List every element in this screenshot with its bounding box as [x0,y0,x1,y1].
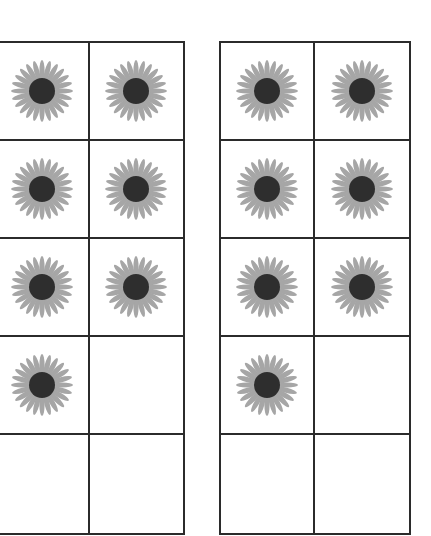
frame-cell [90,141,184,239]
flower-icon [330,255,394,319]
ten-frame-left [0,41,185,535]
flower-icon [10,255,74,319]
frame-cell [90,435,184,533]
frame-cell [90,43,184,141]
frame-cell [0,337,90,435]
frame-cell [315,337,409,435]
flower-icon [330,157,394,221]
frame-cell [90,239,184,337]
frame-cell [221,337,315,435]
frame-cell [315,239,409,337]
ten-frame-right [219,41,411,535]
flower-icon [10,59,74,123]
frame-cell [0,141,90,239]
flower-icon [235,157,299,221]
flower-icon [10,353,74,417]
frame-cell [221,141,315,239]
frame-cell [221,435,315,533]
frame-cell [0,239,90,337]
frame-cell [221,239,315,337]
frame-cell [315,43,409,141]
frame-cell [221,43,315,141]
flower-icon [235,59,299,123]
frame-cell [0,43,90,141]
frame-cell [315,435,409,533]
flower-icon [330,59,394,123]
flower-icon [104,255,168,319]
flower-icon [235,255,299,319]
flower-icon [104,59,168,123]
frame-cell [315,141,409,239]
flower-icon [10,157,74,221]
flower-icon [104,157,168,221]
frame-cell [90,337,184,435]
flower-icon [235,353,299,417]
frame-cell [0,435,90,533]
